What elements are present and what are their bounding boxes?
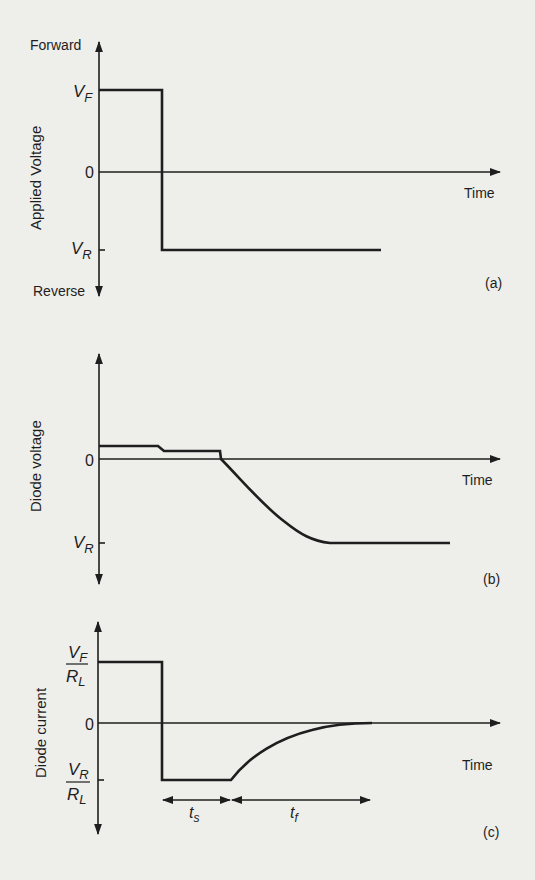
panel-b: Diode voltage 0 VR Time (b) — [27, 354, 500, 587]
panel-c: Diode current VF RL 0 VR RL ts tf Time (… — [32, 622, 500, 840]
tick-label-vr-den: RL — [67, 785, 87, 807]
tick-label-zero-a: 0 — [85, 164, 94, 181]
xlabel-time-b: Time — [462, 472, 493, 488]
tick-label-zero-c: 0 — [85, 716, 94, 733]
tick-label-zero-b: 0 — [85, 452, 94, 469]
panel-tag-b: (b) — [483, 571, 500, 587]
tick-label-vf-den: RL — [66, 667, 86, 689]
tick-label-vf-num: VF — [68, 643, 88, 665]
label-reverse: Reverse — [33, 283, 85, 299]
diode-current-waveform — [98, 662, 372, 780]
tick-label-vr-b: VR — [73, 533, 94, 556]
label-forward: Forward — [30, 37, 81, 53]
tick-label-vf: VF — [73, 82, 93, 105]
tick-label-vr: VR — [71, 239, 92, 262]
ylabel-diode-voltage: Diode voltage — [27, 420, 44, 512]
ylabel-diode-current: Diode current — [32, 687, 49, 778]
label-tf: tf — [290, 804, 299, 825]
xlabel-time-c: Time — [462, 757, 493, 773]
applied-voltage-waveform — [99, 90, 381, 250]
panel-tag-a: (a) — [485, 275, 502, 291]
label-ts: ts — [189, 804, 199, 825]
tick-label-vr-num: VR — [68, 760, 89, 782]
diode-voltage-waveform — [99, 446, 450, 543]
panel-tag-c: (c) — [483, 824, 499, 840]
panel-a: Forward Reverse Applied Voltage VF 0 VR … — [27, 37, 502, 299]
xlabel-time-a: Time — [464, 185, 495, 201]
diode-switching-figure: Forward Reverse Applied Voltage VF 0 VR … — [0, 0, 535, 880]
ylabel-applied-voltage: Applied Voltage — [27, 126, 44, 230]
